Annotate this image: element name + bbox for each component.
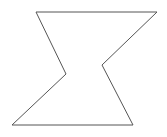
- bowtie-polygon: [12, 12, 157, 125]
- diagram-canvas: [0, 0, 167, 137]
